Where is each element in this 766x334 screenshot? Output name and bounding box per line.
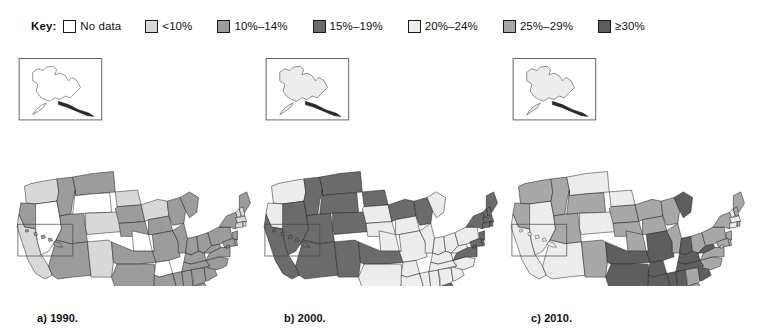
mainland-states <box>511 172 744 286</box>
state-AK <box>58 101 94 116</box>
state-SD <box>609 205 639 224</box>
state-ID <box>551 177 570 216</box>
legend-item-gte-30: ≥30% <box>598 20 645 33</box>
state-AL <box>182 270 193 286</box>
state-HI <box>535 235 539 239</box>
map-panel-1990: a) 1990. <box>6 46 256 334</box>
legend-label-20-24: 20%–24% <box>425 20 478 32</box>
state-HI <box>288 235 292 239</box>
state-AK <box>33 66 81 101</box>
state-HI <box>272 229 276 232</box>
legend-swatch-25-29 <box>503 20 516 33</box>
state-AK <box>552 101 588 116</box>
state-WA <box>25 179 59 204</box>
state-AZ <box>49 240 92 279</box>
state-AK <box>33 103 47 115</box>
choropleth-map-1990 <box>6 46 256 286</box>
state-AL <box>676 270 687 286</box>
legend-label-15-19: 15%–19% <box>330 20 383 32</box>
state-AK <box>527 66 575 101</box>
legend-swatch-gte-30 <box>598 20 611 33</box>
state-HI <box>519 229 523 232</box>
state-TX <box>606 264 650 286</box>
legend-label-lt-10: <10% <box>162 20 192 32</box>
choropleth-map-2010 <box>500 46 750 286</box>
legend-swatch-15-19 <box>313 20 326 33</box>
mainland-states <box>17 172 250 286</box>
legend-item-lt-10: <10% <box>145 20 192 33</box>
state-ND <box>362 190 388 207</box>
legend-item-25-29: 25%–29% <box>503 20 573 33</box>
legend-label-25-29: 25%–29% <box>520 20 573 32</box>
legend-item-20-24: 20%–24% <box>408 20 478 33</box>
state-TX <box>359 264 403 286</box>
state-MT <box>567 172 610 196</box>
state-SD <box>362 205 392 224</box>
panel-caption-2010: c) 2010. <box>531 312 572 324</box>
state-RI <box>243 222 246 227</box>
state-TX <box>112 264 156 286</box>
state-AZ <box>543 240 586 279</box>
state-AK <box>527 103 541 115</box>
state-AK <box>280 66 328 101</box>
state-HI <box>281 232 285 236</box>
state-HI <box>25 229 29 232</box>
state-MT <box>73 172 116 196</box>
state-MT <box>320 172 363 196</box>
panel-caption-1990: a) 1990. <box>37 312 78 324</box>
legend-swatch-no-data <box>63 20 76 33</box>
state-WA <box>272 179 306 204</box>
state-DC <box>226 245 229 249</box>
legend: Key: No data <10% 10%–14% 15%–19% 20%–24… <box>0 0 766 52</box>
state-ND <box>115 190 141 207</box>
state-NM <box>334 240 360 277</box>
state-NM <box>87 240 113 277</box>
map-panels: a) 1990. b) 2000. c) 2010. <box>0 46 766 334</box>
panel-caption-2000: b) 2000. <box>284 312 326 324</box>
legend-label-no-data: No data <box>80 20 121 32</box>
mainland-states <box>264 172 497 286</box>
legend-swatch-10-14 <box>217 20 230 33</box>
state-ID <box>304 177 323 216</box>
choropleth-map-2000 <box>253 46 503 286</box>
state-SD <box>115 205 145 224</box>
state-DC <box>720 245 723 249</box>
state-AK <box>305 101 341 116</box>
legend-item-15-19: 15%–19% <box>313 20 383 33</box>
legend-swatch-20-24 <box>408 20 421 33</box>
state-AL <box>429 270 440 286</box>
legend-label-10-14: 10%–14% <box>234 20 287 32</box>
state-WA <box>519 179 553 204</box>
legend-label-gte-30: ≥30% <box>615 20 645 32</box>
alaska-inset <box>19 59 102 120</box>
state-DC <box>473 245 476 249</box>
state-HI <box>41 235 45 239</box>
state-AZ <box>296 240 339 279</box>
alaska-inset <box>266 59 349 120</box>
alaska-inset <box>513 59 596 120</box>
state-HI <box>528 232 532 236</box>
legend-title: Key: <box>31 20 56 32</box>
map-panel-2000: b) 2000. <box>253 46 503 334</box>
legend-item-no-data: No data <box>63 20 121 33</box>
state-AK <box>280 103 294 115</box>
state-ND <box>609 190 635 207</box>
state-RI <box>737 222 740 227</box>
state-RI <box>490 222 493 227</box>
state-ID <box>57 177 76 216</box>
state-NM <box>581 240 607 277</box>
state-HI <box>34 232 38 236</box>
legend-swatch-lt-10 <box>145 20 158 33</box>
map-panel-2010: c) 2010. <box>500 46 750 334</box>
legend-item-10-14: 10%–14% <box>217 20 287 33</box>
